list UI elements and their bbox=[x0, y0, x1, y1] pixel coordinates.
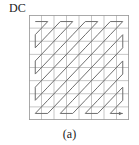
zigzag-figure: DC (a) bbox=[0, 0, 139, 145]
zigzag-scan-grid bbox=[29, 15, 129, 120]
figure-caption: (a) bbox=[0, 127, 139, 141]
dc-label: DC bbox=[9, 2, 26, 15]
zigzag-end-arrow-icon bbox=[119, 112, 123, 115]
